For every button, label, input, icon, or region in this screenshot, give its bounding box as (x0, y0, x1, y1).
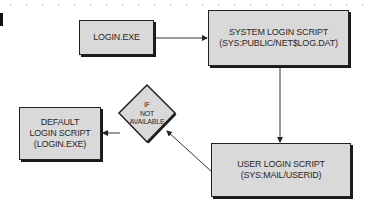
node-sublabel: (SYS:MAIL/USERID) (241, 170, 322, 181)
node-label: USER LOGIN SCRIPT (237, 159, 325, 170)
node-label: SYSTEM LOGIN SCRIPT (229, 27, 328, 38)
node-label: LOGIN.EXE (93, 32, 140, 43)
node-sublabel: (SYS:PUBLIC/NET$LOG.DAT) (219, 38, 338, 49)
node-sublabel: (LOGIN.EXE) (34, 139, 86, 150)
node-label: LOGIN SCRIPT (29, 128, 90, 139)
edge-user-to-decision (167, 131, 212, 172)
decision-line: AVAILABLE (122, 118, 172, 127)
margin-marker (0, 13, 3, 26)
node-system-login-script: SYSTEM LOGIN SCRIPT (SYS:PUBLIC/NET$LOG.… (208, 10, 349, 66)
decision-line: NOT (122, 110, 172, 119)
node-login-exe: LOGIN.EXE (79, 20, 154, 55)
decision-label: IF NOT AVAILABLE (122, 101, 172, 127)
node-user-login-script: USER LOGIN SCRIPT (SYS:MAIL/USERID) (211, 143, 351, 197)
node-default-login-script: DEFAULT LOGIN SCRIPT (LOGIN.EXE) (19, 107, 101, 160)
flowchart-canvas: LOGIN.EXE SYSTEM LOGIN SCRIPT (SYS:PUBLI… (0, 0, 370, 209)
decision-line: IF (122, 101, 172, 110)
node-label: DEFAULT (41, 117, 79, 128)
